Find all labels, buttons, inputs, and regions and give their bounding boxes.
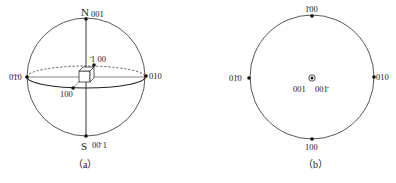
top-point <box>310 14 314 18</box>
south-point <box>84 134 88 138</box>
center-point <box>311 77 314 80</box>
south-letter: S <box>81 140 87 152</box>
back-label: ̄1 00 <box>89 54 106 64</box>
center-upper-label: 001 <box>293 84 306 94</box>
west-point <box>25 75 29 79</box>
left-point <box>247 76 251 80</box>
front-label: 100 <box>60 89 73 99</box>
cube-icon <box>79 67 94 82</box>
east-label: 010 <box>149 71 162 81</box>
center-lower-label: 001̄ <box>315 84 330 94</box>
caption-b: （b） <box>303 159 328 170</box>
bottom-point <box>310 137 314 141</box>
bottom-label: 100 <box>305 142 318 152</box>
stereographic-projection-figure: N 001 S 00̄ 1 0̄1̄0 010 ̄1 00 100 （a） 1̄… <box>0 0 396 183</box>
top-label: 1̄00 <box>305 4 318 14</box>
figure-b-projection <box>247 14 376 141</box>
left-label: 01̄0 <box>229 73 242 83</box>
north-index: 001 <box>91 9 104 19</box>
figure-a-sphere <box>25 17 148 138</box>
south-index: 00̄ 1 <box>92 140 107 150</box>
caption-a: （a） <box>73 159 97 170</box>
west-label: 0̄1̄0 <box>9 72 22 82</box>
north-letter: N <box>81 6 89 18</box>
east-point <box>144 74 148 78</box>
right-label: 010 <box>376 72 389 82</box>
